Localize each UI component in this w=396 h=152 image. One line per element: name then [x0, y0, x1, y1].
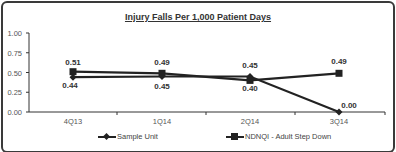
data-label-sample-unit: 0.00 [341, 101, 357, 110]
x-tick-label: 2Q14 [241, 117, 259, 126]
square-marker [336, 70, 343, 77]
series-sample-unit-line [73, 77, 339, 113]
x-tick-label: 4Q13 [64, 117, 82, 126]
y-tick-label: 0.00 [7, 108, 22, 117]
legend-item-ndnqi: NDNQI - Adult Step Down [226, 132, 331, 141]
data-label-ndnqi: 0.40 [242, 84, 258, 93]
x-tick-label: 1Q14 [153, 117, 171, 126]
data-label-sample-unit: 0.44 [62, 81, 78, 90]
y-tick-label: 0.25 [7, 88, 22, 97]
y-tick-label: 0.50 [7, 69, 22, 78]
data-label-sample-unit: 0.45 [154, 82, 170, 91]
legend-item-sample-unit: Sample Unit [98, 132, 158, 141]
legend-label: Sample Unit [117, 132, 158, 141]
diamond-line-icon [98, 133, 116, 141]
data-label-ndnqi: 0.49 [331, 57, 347, 66]
data-label-sample-unit: 0.45 [242, 61, 258, 70]
x-tick-label: 3Q14 [330, 117, 348, 126]
y-tick-label: 1.00 [7, 29, 22, 38]
square-line-icon [226, 133, 244, 141]
legend-label: NDNQI - Adult Step Down [245, 132, 331, 141]
data-label-ndnqi: 0.51 [65, 58, 81, 67]
plot-area: 1.00 0.75 0.50 0.25 0.00 4Q13 1Q14 2Q14 … [0, 0, 396, 152]
y-tick-label: 0.75 [7, 49, 22, 58]
data-label-ndnqi: 0.49 [154, 58, 170, 67]
